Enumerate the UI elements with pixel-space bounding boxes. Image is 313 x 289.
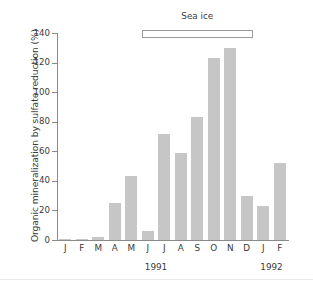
- y-tick-label: 40: [39, 175, 50, 185]
- x-tick-label: D: [239, 243, 256, 253]
- x-tick-label: S: [189, 243, 206, 253]
- bar: [274, 163, 286, 240]
- x-tick-label: J: [140, 243, 157, 253]
- y-tick-label: 80: [39, 116, 50, 126]
- sea-ice-label: Sea ice: [142, 11, 253, 21]
- bar-series: [57, 33, 288, 240]
- x-tick-label: J: [57, 243, 74, 253]
- plot-area: [57, 33, 288, 240]
- x-tick-label: J: [255, 243, 272, 253]
- y-tick-label: 60: [39, 146, 50, 156]
- y-tick-label: 120: [34, 57, 50, 67]
- x-tick-label: O: [206, 243, 223, 253]
- x-axis-line: [57, 240, 289, 241]
- y-tick-label: 20: [39, 205, 50, 215]
- bar: [76, 239, 88, 240]
- x-axis-group-label: 1992: [255, 262, 289, 272]
- x-tick-label: J: [156, 243, 173, 253]
- x-tick-label: A: [107, 243, 124, 253]
- bar: [59, 239, 71, 240]
- x-axis-group-label: 1991: [139, 262, 173, 272]
- bar: [142, 231, 154, 240]
- y-tick-label: 0: [45, 235, 50, 245]
- chart-figure: Organic mineralization by sulfate reduct…: [0, 0, 313, 289]
- x-tick-label: F: [272, 243, 289, 253]
- bar: [158, 134, 170, 240]
- bar: [109, 203, 121, 240]
- bar: [224, 48, 236, 240]
- x-tick-label: A: [173, 243, 190, 253]
- x-tick-label: M: [123, 243, 140, 253]
- bar: [92, 237, 104, 240]
- bar: [257, 206, 269, 240]
- sea-ice-span-bar: [142, 30, 253, 38]
- x-tick-label: M: [90, 243, 107, 253]
- bar: [125, 176, 137, 240]
- bar: [208, 58, 220, 240]
- x-tick-label: N: [222, 243, 239, 253]
- y-tick-label: 140: [34, 28, 50, 38]
- bar: [175, 153, 187, 240]
- x-tick-label: F: [74, 243, 91, 253]
- footer-divider: [0, 279, 313, 280]
- bar: [241, 196, 253, 240]
- bar: [191, 117, 203, 240]
- x-axis-labels: JFMAMJJASONDJF: [57, 243, 288, 257]
- y-tick-label: 100: [34, 87, 50, 97]
